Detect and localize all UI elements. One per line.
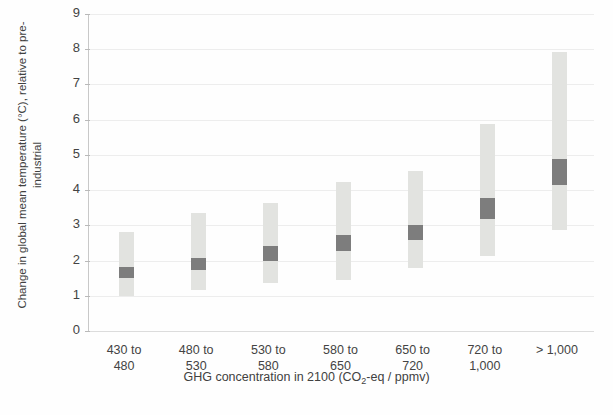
likely-range-band	[263, 246, 278, 260]
y-tick-mark-0	[85, 331, 90, 332]
gridline-8	[89, 49, 594, 50]
gridline-5	[89, 155, 594, 156]
likely-range-band	[552, 159, 567, 185]
y-tick-mark-6	[85, 120, 90, 121]
likely-range-band	[480, 198, 495, 219]
gridline-7	[89, 84, 594, 85]
range-bar	[191, 213, 206, 290]
y-tick-mark-1	[85, 296, 90, 297]
y-tick-label-4: 4	[52, 181, 80, 196]
y-axis-title-container: Change in global mean temperature (°C), …	[0, 0, 54, 340]
y-tick-label-5: 5	[52, 146, 80, 161]
gridline-0	[89, 331, 594, 332]
y-tick-mark-2	[85, 261, 90, 262]
y-tick-mark-5	[85, 155, 90, 156]
range-bar	[408, 171, 423, 268]
ghg-temperature-range-chart: Change in global mean temperature (°C), …	[0, 0, 613, 415]
y-tick-mark-7	[85, 84, 90, 85]
y-axis-title: Change in global mean temperature (°C), …	[15, 15, 45, 315]
range-bar	[552, 52, 567, 230]
range-bar	[263, 203, 278, 283]
plot-area	[88, 14, 593, 331]
x-tick-line-2: 1,000	[440, 358, 530, 374]
gridline-9	[89, 14, 594, 15]
range-bar	[480, 124, 495, 256]
x-tick-label-7: > 1,000	[512, 342, 602, 358]
y-tick-label-3: 3	[52, 216, 80, 231]
y-tick-label-7: 7	[52, 75, 80, 90]
y-tick-label-0: 0	[52, 322, 80, 337]
likely-range-band	[191, 258, 206, 270]
y-tick-label-9: 9	[52, 5, 80, 20]
y-tick-label-2: 2	[52, 252, 80, 267]
y-tick-mark-3	[85, 225, 90, 226]
likely-range-band	[408, 225, 423, 240]
likely-range-band	[336, 235, 351, 250]
range-bar	[119, 232, 134, 296]
likely-range-band	[119, 267, 134, 278]
gridline-1	[89, 296, 594, 297]
gridline-6	[89, 120, 594, 121]
y-tick-label-8: 8	[52, 40, 80, 55]
range-bar	[336, 182, 351, 280]
y-tick-mark-8	[85, 49, 90, 50]
y-tick-label-1: 1	[52, 287, 80, 302]
y-tick-mark-4	[85, 190, 90, 191]
x-tick-line-1: > 1,000	[512, 342, 602, 358]
y-tick-mark-9	[85, 14, 90, 15]
y-tick-label-6: 6	[52, 111, 80, 126]
